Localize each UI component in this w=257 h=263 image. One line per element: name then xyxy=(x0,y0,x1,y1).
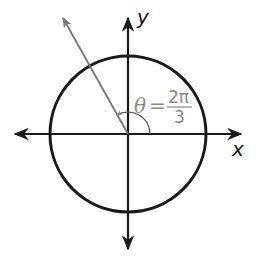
angle-label: θ = 2π 3 xyxy=(134,87,192,127)
theta-symbol: θ xyxy=(134,94,146,118)
y-axis-label: y xyxy=(136,5,150,29)
unit-circle-diagram: x y θ = 2π 3 xyxy=(0,0,257,263)
fraction-denominator: 3 xyxy=(174,107,185,127)
terminal-ray xyxy=(63,18,128,134)
x-axis-label: x xyxy=(231,137,244,161)
equals-sign: = xyxy=(149,94,166,118)
fraction-numerator: 2π xyxy=(168,87,189,107)
diagram-svg: x y θ = 2π 3 xyxy=(0,0,257,263)
